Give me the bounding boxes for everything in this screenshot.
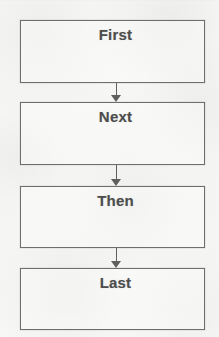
flowchart-node-then-label: Then xyxy=(21,192,204,209)
flowchart-node-next-label: Next xyxy=(21,108,204,125)
flowchart-canvas: First Next Then Last xyxy=(0,0,219,337)
flowchart-node-next[interactable]: Next xyxy=(20,102,205,165)
flowchart-node-last[interactable]: Last xyxy=(20,268,205,330)
flowchart-node-then[interactable]: Then xyxy=(20,186,205,248)
flowchart-arrow-next-to-then xyxy=(111,165,122,186)
flowchart-node-first-label: First xyxy=(21,26,204,43)
arrow-shaft xyxy=(116,248,117,262)
arrow-shaft xyxy=(116,165,117,180)
flowchart-arrow-then-to-last xyxy=(111,248,122,268)
flowchart-arrow-first-to-next xyxy=(111,83,122,102)
arrow-head-down-icon xyxy=(111,179,121,186)
arrow-head-down-icon xyxy=(111,95,121,102)
flowchart-node-first[interactable]: First xyxy=(20,20,205,83)
flowchart-node-last-label: Last xyxy=(21,274,204,291)
arrow-head-down-icon xyxy=(111,261,121,268)
